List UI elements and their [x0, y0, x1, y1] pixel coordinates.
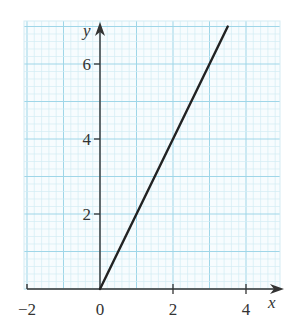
- x-tick-label: −2: [18, 300, 36, 319]
- chart: −2024246 x y: [0, 0, 294, 329]
- y-tick-label: 2: [83, 205, 92, 224]
- x-tick-label: 2: [169, 300, 178, 319]
- grid-background: [24, 21, 280, 289]
- x-axis-label: x: [267, 293, 276, 312]
- y-tick-label: 6: [83, 55, 92, 74]
- grid: [24, 21, 280, 289]
- y-axis-label: y: [81, 21, 91, 40]
- y-tick-label: 4: [83, 130, 92, 149]
- x-tick-label: 0: [96, 300, 105, 319]
- x-tick-label: 4: [242, 300, 251, 319]
